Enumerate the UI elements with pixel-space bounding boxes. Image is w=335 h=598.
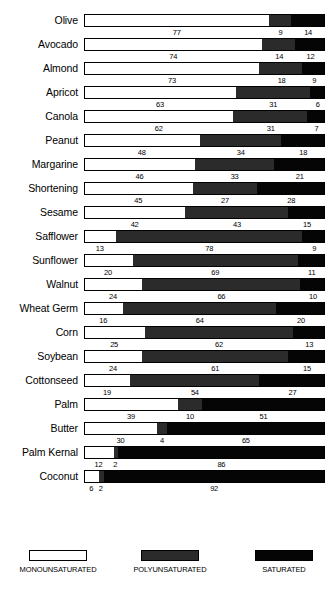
- bar-value-label: 51: [260, 411, 268, 422]
- bar-segment-saturated: [104, 471, 324, 482]
- bar-segment-monounsaturated: [85, 39, 262, 50]
- bar-value-label: 15: [303, 363, 311, 374]
- stacked-bar: [84, 470, 325, 483]
- bar-segment-monounsaturated: [85, 423, 157, 434]
- bar-value-label: 61: [211, 363, 219, 374]
- stacked-bar: [84, 350, 325, 363]
- bar-value-label: 25: [110, 339, 118, 350]
- bar-segment-polyunsaturated: [145, 327, 293, 338]
- row-label-sesame: Sesame: [0, 206, 78, 219]
- value-label-strip: 195427: [84, 387, 325, 398]
- bar-segment-saturated: [291, 15, 324, 26]
- bar-segment-monounsaturated: [85, 159, 195, 170]
- chart-rows: Olive77914Avocado741412Almond73189Aprico…: [0, 14, 335, 494]
- value-label-strip: 246610: [84, 291, 325, 302]
- bar-value-label: 24: [109, 363, 117, 374]
- row-label-wheat-germ: Wheat Germ: [0, 302, 78, 315]
- stacked-bar: [84, 230, 325, 243]
- chart-row: Coconut6292: [0, 470, 335, 494]
- bar-segment-polyunsaturated: [233, 111, 307, 122]
- bar-segment-monounsaturated: [85, 471, 99, 482]
- bar-value-label: 92: [210, 483, 218, 494]
- bar-segment-monounsaturated: [85, 399, 178, 410]
- stacked-bar: [84, 374, 325, 387]
- row-label-almond: Almond: [0, 62, 78, 75]
- bar-value-label: 10: [309, 291, 317, 302]
- row-label-margarine: Margarine: [0, 158, 78, 171]
- bar-value-label: 12: [94, 459, 102, 470]
- bar-segment-polyunsaturated: [116, 231, 302, 242]
- bar-value-label: 48: [138, 147, 146, 158]
- bar-value-label: 27: [221, 195, 229, 206]
- bar-value-label: 34: [237, 147, 245, 158]
- bar-segment-monounsaturated: [85, 327, 145, 338]
- row-label-soybean: Soybean: [0, 350, 78, 363]
- bar-segment-polyunsaturated: [259, 63, 302, 74]
- chart-row: Corn256213: [0, 326, 335, 350]
- bar-segment-saturated: [310, 87, 324, 98]
- bar-segment-polyunsaturated: [193, 183, 258, 194]
- bar-value-label: 14: [304, 27, 312, 38]
- bar-value-label: 62: [215, 339, 223, 350]
- bar-value-label: 69: [211, 267, 219, 278]
- bar-value-label: 18: [299, 147, 307, 158]
- bar-segment-saturated: [302, 231, 324, 242]
- row-label-apricot: Apricot: [0, 86, 78, 99]
- bar-segment-polyunsaturated: [269, 15, 291, 26]
- bar-segment-monounsaturated: [85, 183, 193, 194]
- stacked-bar: [84, 182, 325, 195]
- bar-value-label: 19: [103, 387, 111, 398]
- value-label-strip: 246115: [84, 363, 325, 374]
- bar-value-label: 21: [296, 171, 304, 182]
- bar-segment-monounsaturated: [85, 207, 185, 218]
- bar-segment-polyunsaturated: [195, 159, 274, 170]
- legend-swatch-polyunsaturated-icon: [141, 550, 199, 561]
- bar-value-label: 14: [275, 51, 283, 62]
- chart-row: Walnut246610: [0, 278, 335, 302]
- row-label-safflower: Safflower: [0, 230, 78, 243]
- bar-value-label: 39: [127, 411, 135, 422]
- fat-composition-chart: Olive77914Avocado741412Almond73189Aprico…: [0, 0, 335, 598]
- bar-value-label: 20: [297, 315, 305, 326]
- value-label-strip: 77914: [84, 27, 325, 38]
- legend-label-saturated: SATURATED: [240, 565, 328, 575]
- bar-value-label: 4: [160, 435, 164, 446]
- stacked-bar: [84, 206, 325, 219]
- bar-value-label: 9: [278, 27, 282, 38]
- stacked-bar: [84, 134, 325, 147]
- bar-segment-polyunsaturated: [262, 39, 295, 50]
- legend-label-monounsaturated: MONOUNSATURATED: [8, 565, 108, 575]
- bar-segment-saturated: [302, 63, 324, 74]
- chart-legend: MONOUNSATURATED POLYUNSATURATED SATURATE…: [0, 540, 335, 598]
- chart-row: Apricot63316: [0, 86, 335, 110]
- stacked-bar: [84, 254, 325, 267]
- bar-segment-monounsaturated: [85, 351, 142, 362]
- stacked-bar: [84, 110, 325, 123]
- bar-value-label: 20: [104, 267, 112, 278]
- legend-item-polyunsaturated[interactable]: POLYUNSATURATED: [114, 550, 226, 575]
- value-label-strip: 483418: [84, 147, 325, 158]
- legend-item-monounsaturated[interactable]: MONOUNSATURATED: [8, 550, 108, 575]
- bar-value-label: 12: [307, 51, 315, 62]
- value-label-strip: 30465: [84, 435, 325, 446]
- bar-segment-monounsaturated: [85, 447, 114, 458]
- bar-segment-monounsaturated: [85, 111, 233, 122]
- chart-row: Shortening452728: [0, 182, 335, 206]
- value-label-strip: 166420: [84, 315, 325, 326]
- bar-segment-monounsaturated: [85, 279, 142, 290]
- value-label-strip: 463321: [84, 171, 325, 182]
- stacked-bar: [84, 62, 325, 75]
- bar-segment-saturated: [257, 183, 324, 194]
- row-label-sunflower: Sunflower: [0, 254, 78, 267]
- chart-row: Olive77914: [0, 14, 335, 38]
- chart-row: Safflower13789: [0, 230, 335, 254]
- legend-item-saturated[interactable]: SATURATED: [240, 550, 328, 575]
- bar-segment-saturated: [288, 207, 324, 218]
- chart-row: Canola62317: [0, 110, 335, 134]
- bar-value-label: 11: [308, 267, 315, 278]
- chart-row: Palm Kernal12286: [0, 446, 335, 470]
- stacked-bar: [84, 158, 325, 171]
- bar-value-label: 13: [96, 243, 104, 254]
- value-label-strip: 62317: [84, 123, 325, 134]
- stacked-bar: [84, 38, 325, 51]
